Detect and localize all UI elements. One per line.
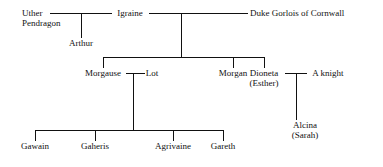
descent-line-alcina bbox=[296, 73, 297, 120]
sibling-drop-morgan bbox=[233, 57, 234, 68]
union-line-morgause-lot bbox=[126, 73, 145, 74]
person-igraine: Igraine bbox=[117, 8, 142, 18]
person-morgan: Morgan bbox=[219, 68, 247, 78]
sibling-drop-gawain bbox=[35, 130, 36, 141]
sibling-bar-generation-3 bbox=[35, 130, 223, 131]
person-gareth: Gareth bbox=[211, 141, 236, 151]
person-label-line1: Agrivaine bbox=[155, 141, 191, 151]
person-morgause: Morgause bbox=[85, 68, 121, 78]
sibling-drop-dioneta bbox=[264, 57, 265, 68]
person-label-line1: Lot bbox=[146, 68, 159, 78]
descent-line-arthur bbox=[81, 13, 82, 38]
family-tree-diagram: Uther Pendragon Igraine Duke Gorlois of … bbox=[0, 0, 383, 167]
person-label-line1: Gareth bbox=[211, 141, 236, 151]
sibling-drop-agrivaine bbox=[173, 130, 174, 141]
person-alcina-sarah: Alcina (Sarah) bbox=[292, 120, 319, 140]
person-gawain: Gawain bbox=[21, 141, 49, 151]
sibling-drop-gaheris bbox=[95, 130, 96, 141]
union-line-igraine-gorlois bbox=[149, 13, 248, 14]
descent-line-morgause-lot-children bbox=[133, 73, 134, 130]
person-label-line1: Morgan bbox=[219, 68, 247, 78]
person-label-line1: A knight bbox=[312, 68, 343, 78]
person-label-line1: Igraine bbox=[117, 8, 142, 18]
person-label-line1: Morgause bbox=[85, 68, 121, 78]
sibling-drop-gareth bbox=[223, 130, 224, 141]
person-label-line2: (Esther) bbox=[250, 78, 279, 88]
person-label-line2: (Sarah) bbox=[292, 130, 319, 140]
person-arthur: Arthur bbox=[69, 38, 93, 48]
person-label-line1: Gaheris bbox=[81, 141, 109, 151]
person-a-knight: A knight bbox=[312, 68, 343, 78]
person-duke-gorlois-of-cornwall: Duke Gorlois of Cornwall bbox=[250, 8, 344, 18]
person-label-line2: Pendragon bbox=[22, 18, 61, 28]
person-agrivaine: Agrivaine bbox=[155, 141, 191, 151]
sibling-bar-generation-2 bbox=[103, 57, 265, 58]
person-gaheris: Gaheris bbox=[81, 141, 109, 151]
sibling-drop-morgause bbox=[103, 57, 104, 68]
descent-line-igraine-gorlois-children bbox=[181, 13, 182, 57]
person-label-line1: Duke Gorlois of Cornwall bbox=[250, 8, 344, 18]
person-label-line1: Alcina bbox=[293, 120, 317, 130]
person-uther-pendragon: Uther Pendragon bbox=[22, 8, 61, 28]
person-dioneta-esther: Dioneta (Esther) bbox=[250, 68, 279, 88]
person-label-line1: Dioneta bbox=[250, 68, 279, 78]
person-label-line1: Uther bbox=[22, 8, 43, 18]
person-lot: Lot bbox=[146, 68, 159, 78]
person-label-line1: Arthur bbox=[69, 38, 93, 48]
person-label-line1: Gawain bbox=[21, 141, 49, 151]
